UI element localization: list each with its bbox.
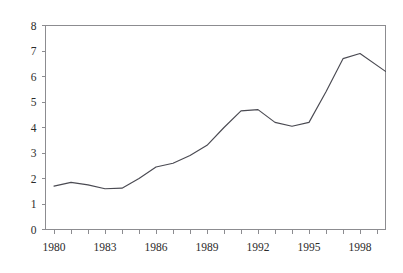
y-tick-label: 6 <box>31 71 37 83</box>
x-tick-label: 1989 <box>196 241 219 253</box>
x-tick-label: 1983 <box>94 241 117 253</box>
y-tick-label: 8 <box>31 20 37 32</box>
x-tick-label: 1980 <box>43 241 66 253</box>
y-axis-ticks <box>42 26 46 230</box>
y-tick-label: 7 <box>31 45 37 57</box>
x-tick-label: 1995 <box>298 241 321 253</box>
y-tick-label: 3 <box>31 147 37 159</box>
y-axis-tick-labels: 012345678 <box>31 20 37 236</box>
y-tick-label: 2 <box>31 173 37 185</box>
y-tick-label: 5 <box>31 96 37 108</box>
y-tick-label: 4 <box>31 122 37 134</box>
x-tick-label: 1992 <box>247 241 270 253</box>
data-series-group <box>54 54 386 189</box>
plot-border <box>46 26 386 230</box>
data-line-series-1 <box>54 54 386 189</box>
x-tick-label: 1986 <box>145 241 168 253</box>
x-tick-label: 1998 <box>349 241 372 253</box>
y-tick-label: 1 <box>31 198 37 210</box>
y-tick-label: 0 <box>31 224 37 236</box>
x-axis-ticks <box>54 230 377 234</box>
plot-frame <box>46 26 386 230</box>
line-chart: 012345678 1980198319861989199219951998 <box>0 0 403 273</box>
x-axis-tick-labels: 1980198319861989199219951998 <box>43 241 372 253</box>
figure-container: 012345678 1980198319861989199219951998 <box>0 0 403 273</box>
